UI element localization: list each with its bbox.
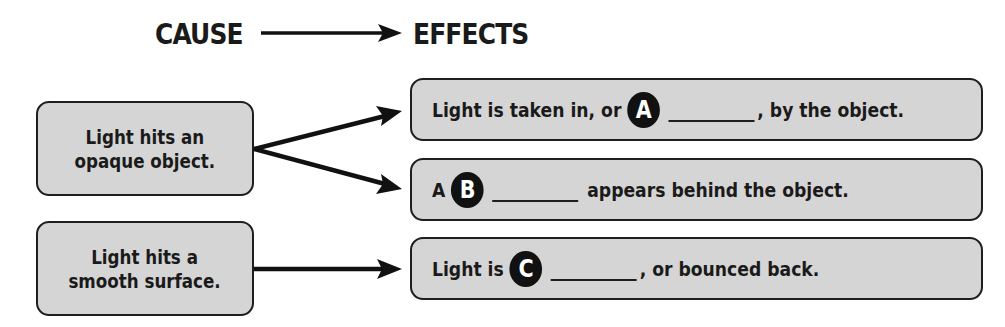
effect-box-absorbed: Light is taken in, or A , by the object. xyxy=(410,78,983,141)
arrow-cause1-to-effect1 xyxy=(254,106,402,149)
effect-box-shadow: A B appears behind the object. xyxy=(410,158,983,221)
cause-box-opaque-object: Light hits an opaque object. xyxy=(36,101,254,196)
arrow-cause2-to-effect3 xyxy=(254,259,402,279)
answer-badge-a: A xyxy=(627,92,660,128)
effect-text-after: , or bounced back. xyxy=(640,257,820,281)
header-arrow xyxy=(261,24,402,42)
effect-box-reflected: Light is C , or bounced back. xyxy=(410,237,983,300)
cause-text-line1: Light hits a xyxy=(69,245,221,269)
effect-text-before: Light is taken in, or xyxy=(432,98,621,122)
effect-text-before: Light is xyxy=(432,257,504,281)
effect-text-after: , by the object. xyxy=(757,98,904,122)
cause-text-line2: smooth surface. xyxy=(69,269,221,293)
answer-badge-b: B xyxy=(451,172,484,208)
arrow-cause1-to-effect2 xyxy=(254,149,402,194)
cause-text-line2: opaque object. xyxy=(75,149,216,173)
answer-badge-c: C xyxy=(510,251,543,287)
effect-text-before: A xyxy=(432,178,445,202)
cause-text-line1: Light hits an xyxy=(75,125,216,149)
answer-blank-c[interactable] xyxy=(551,257,637,281)
effect-text-after: appears behind the object. xyxy=(587,178,849,202)
cause-box-smooth-surface: Light hits a smooth surface. xyxy=(36,221,254,316)
answer-blank-b[interactable] xyxy=(493,178,579,202)
answer-blank-a[interactable] xyxy=(669,98,755,122)
